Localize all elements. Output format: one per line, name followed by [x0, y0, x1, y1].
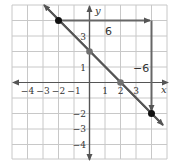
svg-text:−3: −3 [36, 86, 50, 96]
axes [13, 6, 168, 160]
svg-text:−4: −4 [21, 86, 35, 96]
x-axis-label: x [161, 84, 167, 95]
svg-text:−3: −3 [73, 124, 87, 134]
svg-text:−2: −2 [73, 109, 86, 119]
point-neg2-4 [55, 17, 62, 24]
coordinate-plane: y x −4 −3 −2 −1 1 2 3 3 1 −2 −3 −4 6 −6 [0, 0, 176, 167]
svg-text:1: 1 [80, 63, 86, 73]
run-label: 6 [105, 25, 112, 38]
x-tick-labels: −4 −3 −2 −1 1 2 3 [21, 86, 139, 96]
point-0-2 [86, 48, 93, 55]
point-4-neg2 [148, 110, 155, 117]
rise-label: −6 [133, 62, 149, 75]
y-axis-label: y [94, 5, 101, 16]
svg-text:−2: −2 [52, 86, 65, 96]
svg-text:2: 2 [118, 86, 124, 96]
svg-text:3: 3 [80, 32, 86, 42]
point-2-0 [117, 79, 124, 86]
svg-text:1: 1 [102, 86, 108, 96]
svg-text:−4: −4 [73, 140, 87, 150]
svg-text:−1: −1 [67, 86, 80, 96]
svg-text:3: 3 [133, 86, 139, 96]
